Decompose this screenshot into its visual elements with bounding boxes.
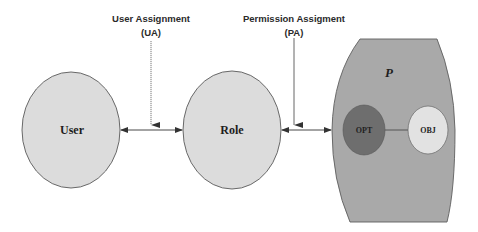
ua-label-line1: User Assignment <box>112 13 191 24</box>
role-label: Role <box>220 123 244 137</box>
pa-label-line1: Permission Assigment <box>243 13 346 24</box>
pa-label-line2: (PA) <box>285 27 304 38</box>
operation-label: OPT <box>356 126 373 135</box>
user-node: User <box>22 72 120 188</box>
permission-label: P <box>385 65 394 80</box>
user-label: User <box>60 123 85 137</box>
ua-label-line2: (UA) <box>141 27 161 38</box>
permission-node: P OPT OBJ <box>332 39 455 222</box>
permission-assignment-label: Permission Assigment (PA) <box>243 13 346 38</box>
user-assignment-label: User Assignment (UA) <box>112 13 191 38</box>
role-node: Role <box>183 71 281 189</box>
object-label: OBJ <box>420 126 436 135</box>
rbac-diagram: User Assignment (UA) Permission Assigmen… <box>0 0 478 232</box>
